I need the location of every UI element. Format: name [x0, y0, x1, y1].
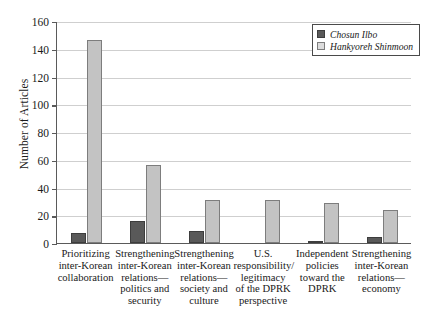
- category-label-line: U.S.: [234, 248, 293, 260]
- category-label-line: responsibility/: [234, 260, 293, 272]
- bar: [130, 221, 145, 243]
- bar: [205, 200, 220, 243]
- y-tick-label: 80: [38, 127, 50, 139]
- category-label-line: of the DPRK: [234, 283, 293, 295]
- bar-chart: Number of Articles 020406080100120140160…: [0, 0, 430, 324]
- y-tick-mark: [52, 244, 57, 245]
- x-axis-category-label: Independentpoliciestoward theDPRK: [293, 248, 352, 295]
- bar-group: [175, 22, 234, 243]
- category-label-line: inter-Korean: [115, 260, 174, 272]
- y-tick-label: 0: [43, 238, 49, 250]
- category-label-line: DPRK: [293, 283, 352, 295]
- bar: [367, 237, 382, 243]
- bar-group: [57, 22, 116, 243]
- category-label-line: collaboration: [56, 272, 115, 284]
- legend-label: Hankyoreh Shinmoon: [330, 41, 413, 52]
- legend: Chosun Ilbo Hankyoreh Shinmoon: [312, 24, 420, 56]
- category-label-line: economy: [352, 283, 411, 295]
- category-label-line: toward the: [293, 272, 352, 284]
- x-axis-category-label: Strengtheninginter-Koreanrelations—socie…: [174, 248, 233, 307]
- category-label-line: culture: [174, 295, 233, 307]
- category-label-line: inter-Korean: [56, 260, 115, 272]
- x-axis-category-label: Prioritizinginter-Koreancollaboration: [56, 248, 115, 283]
- category-label-line: society and: [174, 283, 233, 295]
- x-axis-category-label: Strengtheninginter-Koreanrelations—polit…: [115, 248, 174, 307]
- bar: [324, 203, 339, 243]
- category-label-line: perspective: [234, 295, 293, 307]
- bar: [383, 210, 398, 243]
- category-label-line: Strengthening: [352, 248, 411, 260]
- category-label-line: relations—: [174, 272, 233, 284]
- category-label-line: Independent: [293, 248, 352, 260]
- legend-item: Hankyoreh Shinmoon: [317, 40, 413, 52]
- bar: [87, 40, 102, 243]
- category-label-line: legitimacy: [234, 272, 293, 284]
- category-label-line: Strengthening: [174, 248, 233, 260]
- category-label-line: inter-Korean: [352, 260, 411, 272]
- category-label-line: Strengthening: [115, 248, 174, 260]
- bar: [71, 233, 86, 243]
- y-tick-label: 40: [38, 183, 50, 195]
- bar: [265, 200, 280, 243]
- x-axis-category-labels: Prioritizinginter-KoreancollaborationStr…: [56, 248, 411, 322]
- category-label-line: politics and: [115, 283, 174, 295]
- y-tick-label: 120: [32, 72, 49, 84]
- y-tick-label: 100: [32, 99, 49, 111]
- category-label-line: inter-Korean: [174, 260, 233, 272]
- legend-swatch-icon: [317, 30, 325, 38]
- category-label-line: policies: [293, 260, 352, 272]
- y-tick-label: 20: [38, 210, 50, 222]
- bar: [189, 231, 204, 243]
- category-label-line: relations—: [352, 272, 411, 284]
- y-tick-label: 160: [32, 16, 49, 28]
- x-axis-category-label: Strengtheninginter-Koreanrelations—econo…: [352, 248, 411, 295]
- x-axis-category-label: U.S.responsibility/legitimacyof the DPRK…: [234, 248, 293, 307]
- category-label-line: Prioritizing: [56, 248, 115, 260]
- category-label-line: relations—: [115, 272, 174, 284]
- y-tick-label: 140: [32, 44, 49, 56]
- bar-group: [116, 22, 175, 243]
- bar: [308, 241, 323, 243]
- y-axis-title: Number of Articles: [18, 54, 30, 194]
- legend-swatch-icon: [317, 42, 325, 50]
- bar: [146, 165, 161, 243]
- legend-label: Chosun Ilbo: [330, 29, 377, 40]
- legend-item: Chosun Ilbo: [317, 28, 413, 40]
- category-label-line: security: [115, 295, 174, 307]
- bar-group: [235, 22, 294, 243]
- y-tick-label: 60: [38, 155, 50, 167]
